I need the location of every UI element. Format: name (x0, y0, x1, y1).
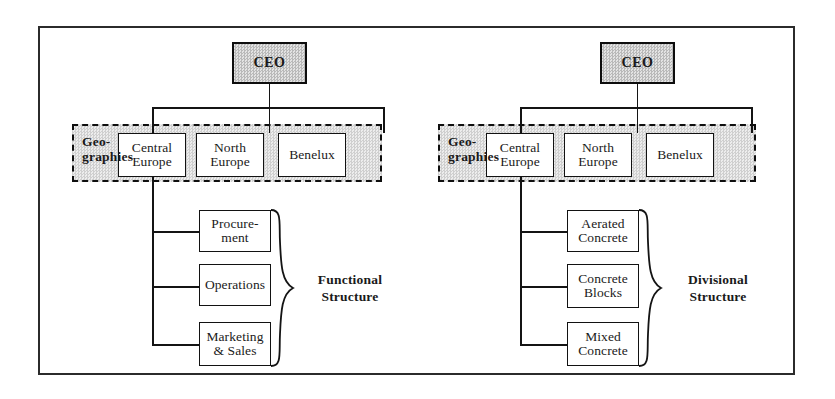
connector-ceo-stem (269, 84, 271, 108)
unit-box-operations[interactable]: Operations (199, 264, 271, 306)
connector-ceo-stem (637, 84, 639, 108)
connector-drop-benelux (751, 107, 753, 133)
unit-box-mixed-concrete[interactable]: Mixed Concrete (567, 322, 639, 366)
functional-structure-label-line2: Structure (321, 289, 378, 304)
unit-operations-line1: Operations (203, 278, 267, 292)
geographies-band-label: Geo- graphies (448, 134, 522, 164)
connector-central-europe-spine (520, 177, 522, 346)
unit-box-procurement[interactable]: Procure- ment (199, 210, 271, 252)
unit-aerated-concrete-line2: Concrete (578, 230, 628, 245)
geography-north-europe-line2: Europe (210, 154, 250, 169)
unit-procurement-line1: Procure- (211, 216, 258, 231)
unit-procurement-line2: ment (221, 230, 248, 245)
geography-box-north-europe[interactable]: North Europe (196, 133, 264, 177)
divisional-structure-label: Divisional Structure (666, 272, 770, 306)
connector-drop-north-europe (269, 107, 271, 133)
geographies-label-line2: graphies (82, 149, 133, 164)
connector-branch-unit-1 (520, 231, 568, 233)
connector-drop-benelux (383, 107, 385, 133)
connector-branch-unit-3 (152, 344, 200, 346)
unit-mixed-concrete-line1: Mixed (585, 329, 621, 344)
geographies-label-line2: graphies (448, 149, 499, 164)
geography-box-north-europe[interactable]: North Europe (564, 133, 632, 177)
geography-north-europe-line2: Europe (578, 154, 618, 169)
ceo-label: CEO (251, 56, 287, 71)
geography-benelux-line1: Benelux (287, 148, 337, 162)
divisional-structure-label-line1: Divisional (688, 272, 748, 287)
unit-concrete-blocks-line2: Blocks (584, 285, 622, 300)
divisional-structure-brace (637, 208, 667, 368)
geography-box-benelux[interactable]: Benelux (646, 133, 714, 177)
ceo-label: CEO (619, 56, 655, 71)
connector-branch-unit-2 (520, 286, 568, 288)
unit-marketing-line2: & Sales (213, 343, 256, 358)
functional-structure-label: Functional Structure (298, 272, 402, 306)
panel-functional-structure: Geo- graphies CEO Central Europe North E… (40, 28, 418, 377)
functional-structure-brace (269, 208, 299, 368)
divisional-structure-label-line2: Structure (689, 289, 746, 304)
unit-concrete-blocks-line1: Concrete (578, 271, 628, 286)
unit-box-aerated-concrete[interactable]: Aerated Concrete (567, 210, 639, 252)
unit-box-marketing-sales[interactable]: Marketing & Sales (199, 322, 271, 366)
unit-marketing-line1: Marketing (206, 329, 263, 344)
connector-drop-north-europe (637, 107, 639, 133)
unit-mixed-concrete-line2: Concrete (578, 343, 628, 358)
panel-divisional-structure: Geo- graphies CEO Central Europe North E… (418, 28, 796, 377)
connector-branch-unit-2 (152, 286, 200, 288)
geography-north-europe-line1: North (214, 140, 246, 155)
connector-central-europe-spine (152, 177, 154, 346)
geography-benelux-line1: Benelux (655, 148, 705, 162)
geographies-label-line1: Geo- (82, 134, 111, 149)
geography-north-europe-line1: North (582, 140, 614, 155)
connector-branch-unit-1 (152, 231, 200, 233)
geography-box-benelux[interactable]: Benelux (278, 133, 346, 177)
figure-outer-frame: Geo- graphies CEO Central Europe North E… (38, 26, 795, 375)
connector-drop-central-europe (152, 107, 154, 133)
connector-branch-unit-3 (520, 344, 568, 346)
geographies-label-line1: Geo- (448, 134, 477, 149)
geographies-band-label: Geo- graphies (82, 134, 156, 164)
ceo-box[interactable]: CEO (232, 42, 307, 84)
unit-box-concrete-blocks[interactable]: Concrete Blocks (567, 264, 639, 308)
unit-aerated-concrete-line1: Aerated (581, 216, 624, 231)
connector-drop-central-europe (520, 107, 522, 133)
functional-structure-label-line1: Functional (318, 272, 382, 287)
ceo-box[interactable]: CEO (600, 42, 675, 84)
